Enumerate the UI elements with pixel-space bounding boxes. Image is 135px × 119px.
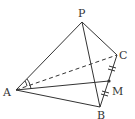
label-A: A (2, 86, 12, 99)
angle-arc-inner (25, 81, 27, 86)
tetrahedron-diagram: P A B C M (0, 0, 135, 119)
point-M (107, 79, 110, 82)
edge-AB (16, 90, 100, 107)
angle-arc-PAC (27, 79, 30, 85)
label-B: B (97, 109, 105, 119)
label-M: M (112, 85, 123, 98)
label-P: P (78, 7, 86, 20)
label-C: C (119, 49, 127, 62)
edge-PC (82, 22, 117, 55)
edge-PA (16, 22, 82, 90)
